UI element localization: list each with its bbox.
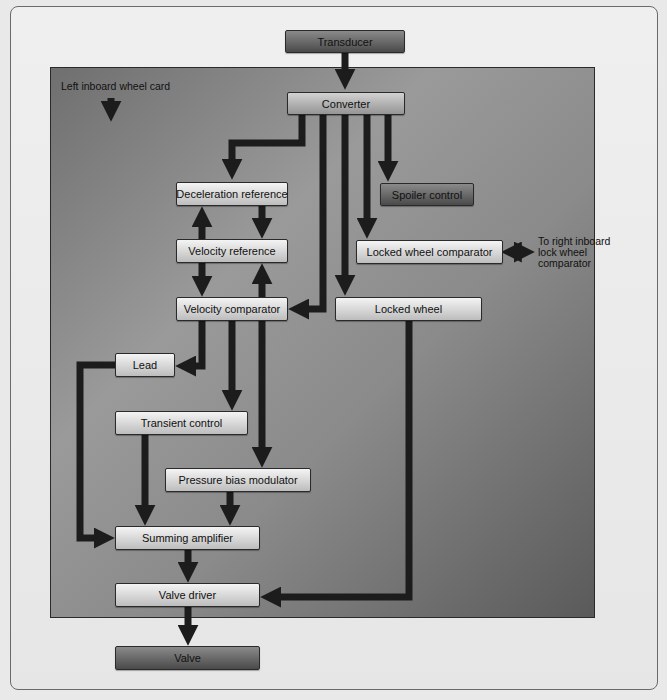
node-locked-wheel: Locked wheel (335, 297, 482, 321)
arrow-velcomp-lead (185, 321, 202, 366)
node-valve-driver: Valve driver (115, 583, 260, 607)
node-transducer: Transducer (285, 30, 405, 53)
node-velocity-reference: Velocity reference (176, 239, 288, 263)
arrow-converter-decel (232, 115, 302, 170)
arrow-lockedwheel-valvedriver (270, 321, 409, 597)
node-deceleration-reference: Deceleration reference (176, 182, 288, 206)
right-inboard-note-line-3: comparator (538, 258, 610, 269)
node-pressure-bias-modulator: Pressure bias modulator (165, 468, 311, 492)
arrow-lead-summing (80, 365, 115, 538)
node-lead: Lead (115, 353, 175, 377)
node-converter: Converter (287, 92, 405, 115)
node-summing-amplifier: Summing amplifier (115, 526, 260, 550)
node-valve: Valve (115, 646, 260, 670)
node-spoiler-control: Spoiler control (380, 183, 474, 206)
right-inboard-note: To right inboard lock wheel comparator (538, 236, 610, 269)
node-velocity-comparator: Velocity comparator (176, 297, 288, 321)
node-transient-control: Transient control (115, 411, 248, 435)
node-locked-wheel-comparator: Locked wheel comparator (356, 240, 503, 264)
